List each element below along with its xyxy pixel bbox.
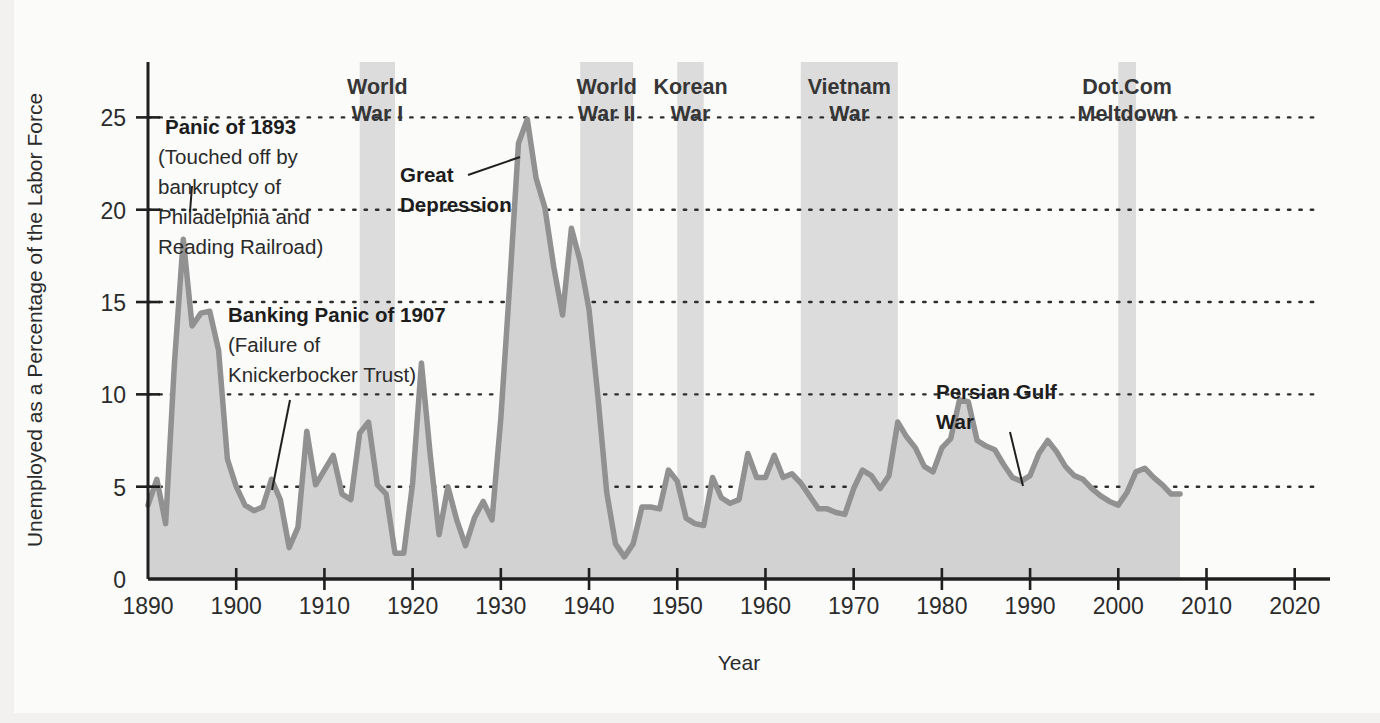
unemployment-line-chart: 1890190019101920193019401950196019701980…: [0, 0, 1380, 723]
y-tick-label: 25: [100, 105, 126, 131]
x-tick-label: 1970: [828, 593, 879, 619]
annotation-great-depression-leader-line: [468, 157, 520, 175]
x-tick-label: 2010: [1181, 593, 1232, 619]
annotation-panic-1893-line-5: Reading Railroad): [158, 235, 323, 258]
unemployment-chart-figure: 1890190019101920193019401950196019701980…: [0, 0, 1380, 723]
annotation-banking-panic-1907-line-1: Banking Panic of 1907: [228, 303, 446, 326]
x-tick-label: 2020: [1269, 593, 1320, 619]
x-axis-title: Year: [718, 651, 760, 674]
annotation-banking-panic-1907-leader-line: [272, 400, 290, 490]
y-tick-label: 5: [113, 475, 126, 501]
band-label-line-2: War: [671, 102, 711, 126]
x-tick-label: 1900: [211, 593, 262, 619]
x-tick-label: 1980: [916, 593, 967, 619]
band-label-line-2: War II: [578, 102, 636, 126]
x-tick-label: 1990: [1005, 593, 1056, 619]
x-tick-label: 2000: [1093, 593, 1144, 619]
y-axis-title: Unemployed as a Percentage of the Labor …: [23, 93, 46, 547]
annotation-great-depression-line-1: Great: [400, 163, 454, 186]
annotation-banking-panic-1907-line-3: Knickerbocker Trust): [228, 363, 416, 386]
annotation-panic-1893-line-2: (Touched off by: [158, 145, 299, 168]
annotation-banking-panic-1907-line-2: (Failure of: [228, 333, 321, 356]
band-label-line-1: Vietnam: [808, 75, 891, 99]
annotation-panic-1893: Panic of 1893 (Touched off by bankruptcy…: [158, 115, 323, 258]
y-tick-label: 15: [100, 290, 126, 316]
band-label-line-2: War I: [351, 102, 403, 126]
annotation-panic-1893-line-3: bankruptcy of: [158, 175, 281, 198]
x-tick-label: 1930: [475, 593, 526, 619]
annotation-great-depression-line-2: Depression: [400, 193, 512, 216]
annotation-great-depression: Great Depression: [400, 157, 520, 216]
band-label-line-1: Dot.Com: [1082, 75, 1172, 99]
band-label-line-2: War: [829, 102, 869, 126]
band-label-line-1: World: [576, 75, 637, 99]
x-tick-label: 1890: [122, 593, 173, 619]
page-edge-bottom: [0, 713, 1380, 723]
band-label-line-2: Meltdown: [1078, 102, 1177, 126]
annotation-panic-1893-line-1: Panic of 1893: [165, 115, 296, 138]
y-tick-label: 0: [113, 567, 126, 593]
y-tick-label: 20: [100, 198, 126, 224]
x-tick-label: 1940: [563, 593, 614, 619]
annotation-panic-1893-line-4: Philadelphia and: [158, 205, 310, 228]
x-tick-label: 1960: [740, 593, 791, 619]
x-tick-label: 1920: [387, 593, 438, 619]
band-label-line-1: Korean: [653, 75, 727, 99]
page-edge-left: [0, 0, 14, 723]
annotation-persian-gulf-war-line-2: War: [936, 410, 974, 433]
annotation-persian-gulf-war-line-1: Persian Gulf: [936, 380, 1057, 403]
x-tick-label: 1950: [652, 593, 703, 619]
band-label-line-1: World: [347, 75, 408, 99]
y-tick-label: 10: [100, 382, 126, 408]
band-labels: WorldWar IWorldWar IIKoreanWarVietnamWar…: [347, 75, 1177, 126]
x-tick-label: 1910: [299, 593, 350, 619]
